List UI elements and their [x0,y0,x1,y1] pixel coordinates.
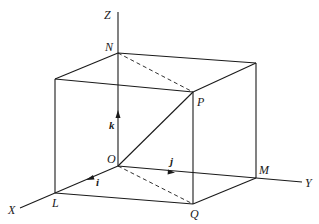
y-axis-label: Y [305,176,313,190]
x-axis-label: X [7,203,16,217]
i-arrow-icon [86,175,95,180]
edge-l-q [55,193,193,204]
point-p-label: P [196,95,205,109]
vector-j-label: j [168,155,174,167]
vector-k-label: k [109,119,115,131]
point-q-label: Q [190,207,199,221]
vector-i-label: i [96,176,100,188]
edge-n-top-left [55,53,118,79]
coordinate-box-diagram: Z N P k O i j M Y L X Q [0,0,319,224]
origin-label: O [107,152,116,166]
z-axis-label: Z [104,8,111,22]
x-axis [20,166,118,208]
edge-n-top-right [118,53,256,63]
point-l-label: L [51,196,59,210]
edge-q-m [193,178,256,204]
edge-top-left-p [55,79,193,92]
vector-op [118,92,193,166]
point-m-label: M [258,163,270,177]
point-n-label: N [104,40,114,54]
edge-p-top-right [193,63,256,92]
k-arrow-icon [116,110,121,118]
